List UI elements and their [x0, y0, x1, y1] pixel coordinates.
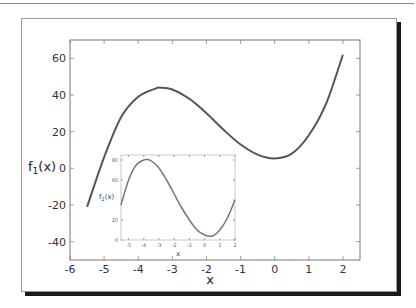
y-tick-label: 80 [112, 157, 118, 163]
y-tick-label: 60 [112, 177, 118, 183]
x-tick-label: 2 [233, 242, 236, 248]
x-tick-label: 0 [203, 242, 206, 248]
main-y-label-tail: (x) [38, 159, 56, 174]
inset-y-label: f2(x) [99, 193, 115, 202]
main-x-label: x [206, 272, 214, 287]
x-tick-label: -4 [133, 263, 144, 276]
x-tick-label: -1 [235, 263, 246, 276]
x-tick-label: -3 [167, 263, 178, 276]
x-tick-label: 1 [218, 242, 221, 248]
y-tick-label: -20 [48, 199, 66, 212]
x-tick-label: -2 [172, 242, 177, 248]
x-tick-label: -1 [187, 242, 192, 248]
inset-plot: -5-4-3-2-1012 0206080 x f2(x) [99, 155, 237, 258]
y-tick-label: 60 [52, 52, 66, 65]
inset-y-label-tail: (x) [105, 193, 115, 201]
x-tick-label: -5 [126, 242, 131, 248]
x-tick-label: 0 [271, 263, 278, 276]
inset-plot-frame [121, 155, 235, 240]
y-tick-label: -40 [48, 236, 66, 249]
main-y-label: f1(x) [28, 159, 56, 176]
y-tick-label: 40 [52, 89, 66, 102]
x-tick-label: 2 [339, 263, 346, 276]
x-tick-label: -3 [157, 242, 162, 248]
x-tick-label: 1 [305, 263, 312, 276]
figure: -6-5-4-3-2-1012 -40-200204060 x f1(x) -5… [0, 0, 416, 308]
y-tick-label: 0 [59, 162, 66, 175]
y-tick-label: 20 [112, 217, 118, 223]
x-tick-label: -5 [99, 263, 110, 276]
x-tick-label: -4 [141, 242, 146, 248]
y-tick-label: 20 [52, 126, 66, 139]
x-tick-label: -6 [65, 263, 76, 276]
y-tick-label: 0 [115, 237, 118, 243]
inset-x-label: x [176, 250, 180, 258]
